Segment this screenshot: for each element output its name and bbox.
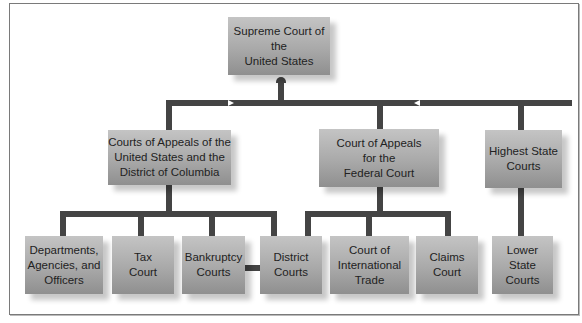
connector [445,211,451,236]
arrow-notch [228,100,234,106]
connector [60,211,277,217]
node-lower-state: Lower State Courts [492,236,553,294]
node-international-trade: Court of International Trade [330,236,409,294]
connector [138,211,144,236]
connector [209,211,215,236]
node-claims: Claims Court [416,236,478,294]
node-departments: Departments, Agencies, and Officers [25,236,103,294]
connector [60,211,66,236]
connector [518,188,524,236]
connector [166,100,572,106]
connector [366,211,372,236]
connector [271,211,277,236]
connector [305,211,311,236]
connector [518,100,524,130]
node-bankruptcy: Bankruptcy Courts [182,236,245,294]
node-appeals-federal: Court of Appeals for the Federal Court [319,129,439,187]
node-highest-state: Highest State Courts [485,130,562,188]
arrow-notch [414,100,420,106]
connector [166,100,172,130]
connector [278,80,284,102]
node-appeals-us-dc: Courts of Appeals of the United States a… [108,130,231,185]
arrow-head [276,77,286,83]
node-supreme-court: Supreme Court of the United States [228,17,330,75]
connector [377,100,383,129]
node-tax-court: Tax Court [112,236,174,294]
node-district: District Courts [260,236,322,294]
connector [245,265,260,271]
connector [305,211,451,217]
